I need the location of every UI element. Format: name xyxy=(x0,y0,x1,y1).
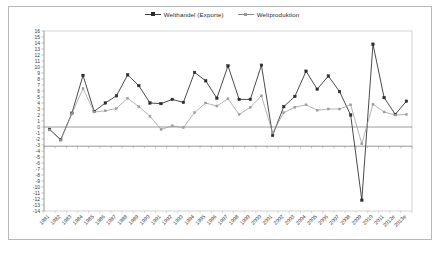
y-tick-label: -2 xyxy=(36,136,41,142)
data-point xyxy=(204,80,207,83)
y-tick-label: 6 xyxy=(37,88,40,94)
data-point xyxy=(272,132,274,134)
x-tick-label-group: 1999 xyxy=(239,213,251,225)
x-tick-label-group: 1984 xyxy=(71,213,83,225)
x-tick-label: 1986 xyxy=(94,213,106,225)
x-tick-label-group: 1989 xyxy=(127,213,139,225)
y-tick-label: 5 xyxy=(37,94,40,100)
x-tick-label: 2007 xyxy=(328,213,340,225)
x-tick-label-group: 1997 xyxy=(216,213,228,225)
data-point xyxy=(282,105,285,108)
data-point xyxy=(194,112,196,114)
x-tick-label-group: 2007 xyxy=(328,213,340,225)
data-point xyxy=(227,98,229,100)
x-tick-label: 1985 xyxy=(82,213,94,225)
data-point xyxy=(182,127,184,129)
plot-border xyxy=(44,31,412,211)
data-point xyxy=(216,97,219,100)
data-point xyxy=(216,105,218,107)
x-tick-label-group: 1981 xyxy=(38,213,50,225)
x-tick-label-group: 2002 xyxy=(272,213,284,225)
x-tick-label-group: 1985 xyxy=(82,213,94,225)
data-point xyxy=(271,134,274,137)
x-tick-label: 2005 xyxy=(306,213,318,225)
data-point xyxy=(294,95,297,98)
y-tick-label: 1 xyxy=(37,118,40,124)
data-point xyxy=(316,109,318,111)
x-tick-label: 1999 xyxy=(239,213,251,225)
x-tick-label-group: 1994 xyxy=(183,213,195,225)
x-tick-label: 1998 xyxy=(227,213,239,225)
data-point xyxy=(49,129,51,131)
data-point xyxy=(93,111,95,113)
x-tick-label-group: 1995 xyxy=(194,213,206,225)
data-point xyxy=(104,102,107,105)
y-tick-label: 15 xyxy=(34,34,40,40)
x-tick-label-group: 2001 xyxy=(261,213,273,225)
x-tick-label: 2013e xyxy=(393,213,408,228)
data-point xyxy=(60,139,62,141)
y-tick-label: 9 xyxy=(37,70,40,76)
y-tick-label: -11 xyxy=(33,190,40,196)
x-tick-label-group: 1991 xyxy=(149,213,161,225)
data-point xyxy=(327,75,330,78)
x-tick-label-group: 2009 xyxy=(350,213,362,225)
y-tick-label: -10 xyxy=(33,184,40,190)
y-tick-label: -7 xyxy=(36,166,41,172)
data-point xyxy=(249,106,251,108)
x-tick-label-group: 1988 xyxy=(116,213,128,225)
data-point xyxy=(260,95,262,97)
y-tick-label: 14 xyxy=(34,40,40,46)
data-point xyxy=(205,102,207,104)
y-tick-label: 8 xyxy=(37,76,40,82)
data-point xyxy=(115,107,117,109)
y-tick-label: -5 xyxy=(36,154,41,160)
y-tick-label: -3 xyxy=(36,142,41,148)
x-tick-label-group: 2005 xyxy=(306,213,318,225)
data-point xyxy=(138,106,140,108)
x-tick-label: 2002 xyxy=(272,213,284,225)
x-tick-label: 2003 xyxy=(283,213,295,225)
data-point xyxy=(327,108,329,110)
data-point xyxy=(294,106,296,108)
data-point xyxy=(305,104,307,106)
data-point xyxy=(137,84,140,87)
x-tick-label: 1982 xyxy=(49,213,61,225)
y-tick-label: 16 xyxy=(34,28,40,34)
x-tick-label: 1987 xyxy=(105,213,117,225)
data-point xyxy=(82,74,85,77)
data-point xyxy=(71,113,73,115)
y-tick-label: 13 xyxy=(34,46,40,52)
data-point xyxy=(171,125,173,127)
x-tick-label: 2001 xyxy=(261,213,273,225)
x-tick-label-group: 1983 xyxy=(60,213,72,225)
y-tick-label: 0 xyxy=(37,124,40,130)
data-point xyxy=(372,103,374,105)
y-tick-label: 11 xyxy=(35,58,40,64)
data-point xyxy=(160,128,162,130)
x-tick-label: 1991 xyxy=(149,213,161,225)
data-point xyxy=(82,88,84,90)
x-tick-label-group: 2000 xyxy=(250,213,262,225)
x-tick-label: 2000 xyxy=(250,213,262,225)
x-tick-label: 2010 xyxy=(361,213,373,225)
x-tick-label-group: 1998 xyxy=(227,213,239,225)
data-point xyxy=(238,98,241,101)
data-point xyxy=(249,98,252,101)
y-tick-label: -13 xyxy=(33,202,40,208)
x-tick-label-group: 1992 xyxy=(161,213,173,225)
data-point xyxy=(350,104,352,106)
y-tick-label: -6 xyxy=(36,160,41,166)
x-tick-label: 2004 xyxy=(294,213,306,225)
data-point xyxy=(339,108,341,110)
data-point xyxy=(171,98,174,101)
x-tick-label: 1984 xyxy=(71,213,83,225)
x-tick-label: 1993 xyxy=(172,213,184,225)
line-chart-svg: -14-13-12-11-10-9-8-7-6-5-4-3-2-10123456… xyxy=(0,0,444,256)
data-point xyxy=(305,70,308,73)
x-tick-label: 1989 xyxy=(127,213,139,225)
data-point xyxy=(127,97,129,99)
y-tick-label: 10 xyxy=(34,64,40,70)
x-tick-label-group: 2006 xyxy=(317,213,329,225)
x-tick-label-group: 2013e xyxy=(393,213,408,228)
